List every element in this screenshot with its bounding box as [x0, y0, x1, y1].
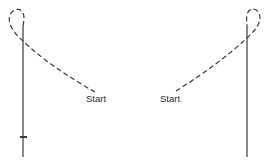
- diagram-canvas: [0, 0, 266, 167]
- left-dashed-trajectory: [9, 9, 95, 92]
- right-start-label: Start: [160, 94, 180, 104]
- left-figure: [9, 9, 95, 157]
- left-start-label: Start: [86, 94, 106, 104]
- right-figure: [176, 9, 260, 157]
